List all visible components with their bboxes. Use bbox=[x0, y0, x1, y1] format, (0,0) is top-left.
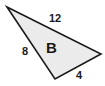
side-length-label-bottom-right: 4 bbox=[76, 70, 82, 81]
geometry-figure: 12 8 4 B bbox=[0, 0, 105, 86]
side-length-label-top: 12 bbox=[49, 13, 61, 24]
side-length-label-left: 8 bbox=[22, 46, 28, 57]
shape-name-label: B bbox=[46, 40, 57, 55]
